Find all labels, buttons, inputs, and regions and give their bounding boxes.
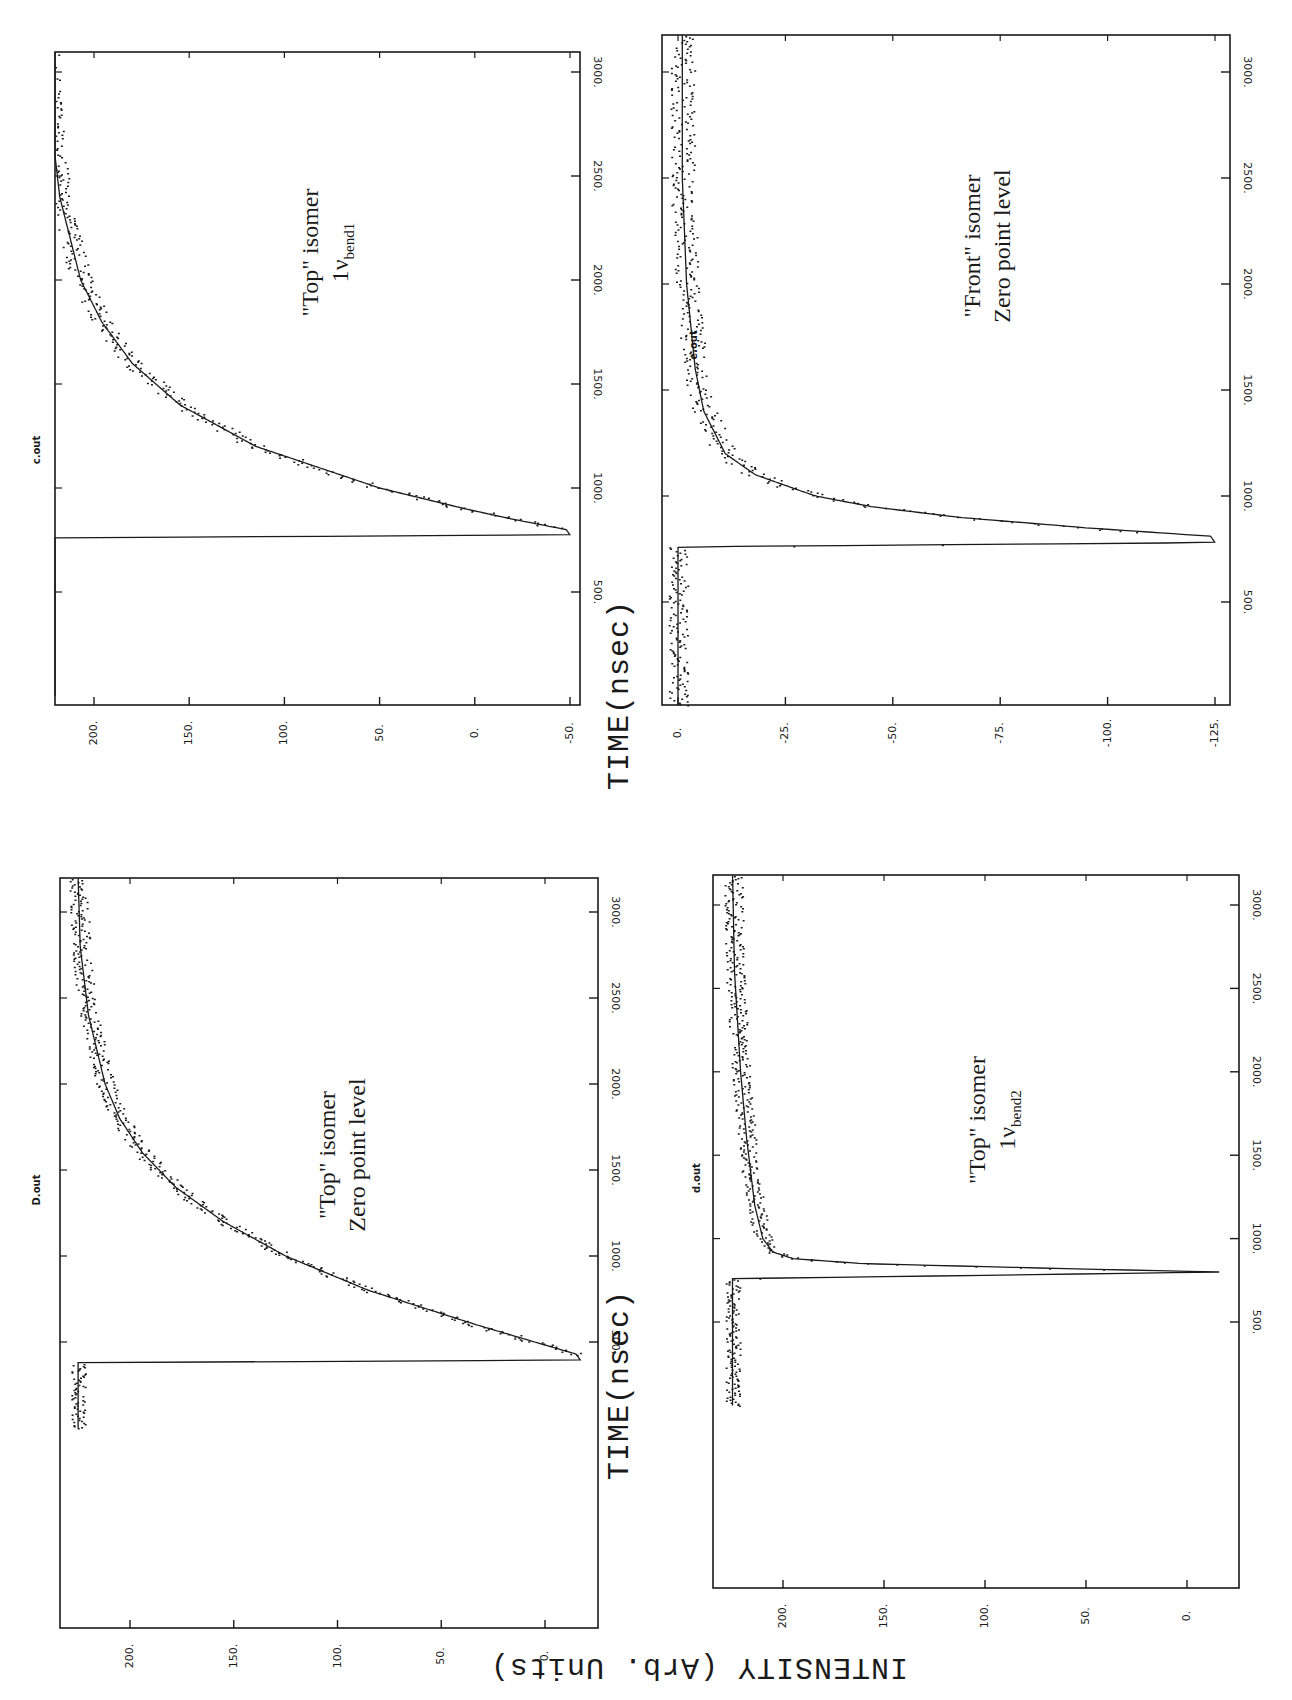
file-label: d.out <box>691 1163 702 1193</box>
time-tick-label: 1000. <box>591 472 604 504</box>
intensity-tick-label: 150. <box>227 1644 240 1669</box>
time-tick-label: 1000. <box>1250 1223 1263 1255</box>
plot-frame <box>713 875 1239 1588</box>
panel-bottom-right: 500.1000.1500.2000.2500.3000.200.150.100… <box>691 875 1263 1628</box>
time-tick-label: 2500. <box>591 160 604 192</box>
annotation-line-1: "Top" isomer <box>297 189 323 317</box>
panel-bottom-left: 500.1000.1500.2000.2500.3000.200.150.100… <box>31 878 622 1668</box>
intensity-tick-label: -100. <box>1101 719 1114 747</box>
intensity-tick-label: 150. <box>182 721 195 746</box>
time-tick-label: 1000. <box>609 1240 622 1272</box>
time-tick-label: 2000. <box>609 1068 622 1100</box>
figure: 500.1000.1500.2000.2500.3000.200.150.100… <box>0 0 1292 1700</box>
intensity-tick-label: 0. <box>468 728 481 739</box>
time-tick-label: 1500. <box>1250 1139 1263 1171</box>
intensity-tick-label: 100. <box>978 1604 991 1629</box>
plot-frame <box>662 35 1230 705</box>
time-tick-label: 2500. <box>1250 973 1263 1005</box>
panel-top-left: 500.1000.1500.2000.2500.3000.200.150.100… <box>31 52 604 745</box>
time-tick-label: 2500. <box>609 982 622 1014</box>
file-label: D.out <box>31 1174 42 1205</box>
panel-top-right: 500.1000.1500.2000.2500.3000.0.-25.-50.-… <box>662 35 1254 747</box>
intensity-tick-label: 100. <box>331 1644 344 1669</box>
time-tick-label: 1500. <box>591 368 604 400</box>
time-tick-label: 3000. <box>1250 889 1263 921</box>
time-tick-label: 3000. <box>609 896 622 928</box>
intensity-tick-label: -50. <box>886 722 899 743</box>
intensity-tick-label: 50. <box>1079 1607 1092 1625</box>
plot-frame <box>60 878 598 1628</box>
intensity-tick-label: 100. <box>277 721 290 746</box>
time-tick-label: 500. <box>1241 590 1254 615</box>
time-tick-label: 1500. <box>1241 374 1254 406</box>
time-tick-label: 2000. <box>591 264 604 296</box>
intensity-axis-title: INTENSITY (Arb. Units) <box>490 1650 908 1684</box>
time-tick-label: 2500. <box>1241 162 1254 194</box>
intensity-tick-label: 0. <box>1180 1611 1193 1622</box>
intensity-tick-label: 0. <box>671 728 684 739</box>
intensity-tick-label: 150. <box>877 1604 890 1629</box>
time-tick-label: 3000. <box>591 56 604 88</box>
annotation-line-1: "Front" isomer <box>959 175 985 318</box>
intensity-tick-label: -125. <box>1208 719 1221 747</box>
time-axis-title-top: TIME(nsec) <box>603 600 637 790</box>
intensity-tick-label: -50. <box>563 722 576 743</box>
fit-line <box>55 52 570 696</box>
annotation-line-2: 1νbend1 <box>327 223 357 283</box>
time-tick-label: 2000. <box>1250 1056 1263 1088</box>
time-tick-label: 500. <box>1250 1310 1263 1335</box>
intensity-tick-label: 50. <box>373 724 386 742</box>
data-points <box>724 876 1105 1407</box>
intensity-tick-label: -25. <box>778 722 791 743</box>
data-points <box>669 36 1139 707</box>
annotation-line-2: Zero point level <box>989 169 1015 323</box>
time-tick-label: 1000. <box>1241 480 1254 512</box>
plot-frame <box>55 52 580 705</box>
intensity-tick-label: 200. <box>123 1644 136 1669</box>
fit-line <box>678 35 1215 705</box>
time-tick-label: 1500. <box>609 1154 622 1186</box>
time-tick-label: 2000. <box>1241 268 1254 300</box>
file-label: e.out <box>688 330 699 360</box>
annotation-line-1: "Top" isomer <box>964 1056 990 1184</box>
plots-canvas: 500.1000.1500.2000.2500.3000.200.150.100… <box>0 0 1292 1700</box>
file-label: c.out <box>31 436 42 465</box>
time-tick-label: 3000. <box>1241 56 1254 88</box>
intensity-tick-label: -75. <box>993 722 1006 743</box>
intensity-tick-label: 200. <box>776 1604 789 1629</box>
intensity-tick-label: 200. <box>87 721 100 746</box>
annotation-line-1: "Top" isomer <box>314 1091 340 1219</box>
annotation-line-2: Zero point level <box>344 1078 370 1232</box>
time-axis-title-bottom: TIME(nsec) <box>603 1290 637 1480</box>
intensity-tick-label: 50. <box>434 1647 447 1665</box>
annotation-line-2: 1νbend2 <box>994 1090 1024 1150</box>
